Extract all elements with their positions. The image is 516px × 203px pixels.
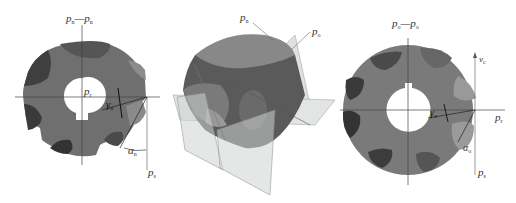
isometric-view-panel: pn po — [165, 0, 340, 203]
label-pn-pn: pn—pn — [66, 13, 93, 25]
label-gamma-o: γo — [430, 108, 437, 119]
label-alpha-o: αo — [463, 143, 471, 154]
label-ps: ps — [148, 167, 156, 179]
label-ps: ps — [478, 167, 486, 179]
label-alpha-n: αn — [128, 145, 137, 157]
label-pn: pn — [240, 12, 249, 24]
label-po: po — [312, 26, 321, 38]
label-gamma-n: γn — [106, 99, 113, 111]
label-po-po: po—po — [392, 18, 419, 30]
orthogonal-view-panel: po—po vc pr γo αo ps — [340, 0, 516, 203]
label-pr: pr — [495, 112, 503, 124]
cutter-orthogonal-view-drawing — [340, 0, 516, 203]
normal-view-panel: pn—pn pr γn αn ps — [0, 0, 175, 203]
label-vc: vc — [479, 55, 486, 65]
label-pr: pr — [84, 86, 92, 98]
